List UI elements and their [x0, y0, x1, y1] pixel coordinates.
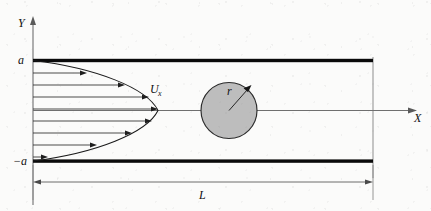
flow-arrow [33, 95, 149, 100]
dimension-arrowhead-right [365, 180, 373, 185]
y-axis-arrowhead [30, 16, 36, 25]
poiseuille-flow-diagram: Y X a −a [0, 0, 431, 211]
flow-arrow [33, 131, 132, 136]
flow-arrow [33, 143, 97, 148]
upper-wall [33, 59, 373, 62]
upper-wall-label: a [18, 53, 24, 67]
velocity-label-subscript: x [157, 89, 162, 98]
radius-label: r [227, 84, 232, 98]
flow-arrow [33, 119, 152, 124]
figure-container: Y X a −a [0, 0, 431, 211]
flow-arrow-head [80, 71, 87, 76]
x-axis-label: X [413, 111, 422, 125]
lower-wall-label: −a [13, 154, 27, 168]
dimension-arrowhead-left [33, 180, 41, 185]
flow-arrow [33, 83, 125, 88]
flow-arrow [33, 71, 87, 76]
lower-wall [33, 159, 373, 162]
y-axis-label: Y [18, 16, 26, 30]
length-label: L [198, 188, 206, 202]
length-dimension: L [33, 165, 373, 202]
flow-arrow-head [90, 143, 97, 148]
obstacle-group: r [201, 83, 257, 139]
